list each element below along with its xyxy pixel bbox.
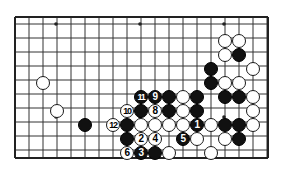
move-number-label: 9 [152, 92, 157, 102]
go-diagram-figure: 12101198124563 [0, 0, 281, 179]
star-point [222, 22, 226, 26]
move-number-label: 3 [138, 148, 143, 158]
move-number-label: 2 [138, 134, 143, 144]
move-number-label: 5 [180, 134, 185, 144]
move-number-label: 6 [124, 148, 129, 158]
move-number-label: 12 [109, 120, 117, 129]
move-number-label: 11 [137, 92, 144, 101]
star-point [138, 22, 142, 26]
move-number-label: 8 [152, 106, 157, 116]
move-number-label: 4 [152, 134, 157, 144]
move-number-label: 1 [194, 120, 199, 130]
star-point [54, 22, 58, 26]
move-number-label: 10 [123, 106, 131, 115]
